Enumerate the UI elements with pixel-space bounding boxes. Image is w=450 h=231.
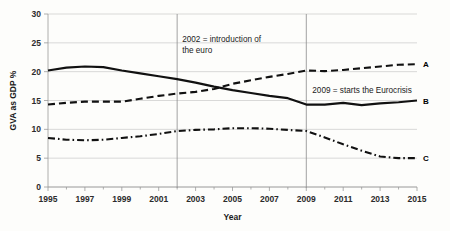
- x-tick-label-1995: 1995: [39, 194, 58, 204]
- y-tick-label-15: 15: [32, 96, 42, 106]
- x-tick-label-1997: 1997: [75, 194, 94, 204]
- x-tick-label-1999: 1999: [112, 194, 131, 204]
- series-label-B: B: [423, 97, 429, 106]
- eurocrisis-annotation-line1: 2009 = starts the Eurocrisis: [312, 86, 411, 95]
- euro-annotation-line2: the euro: [182, 46, 212, 55]
- chart-container: 051015202530 199519971999200120032005200…: [0, 0, 450, 231]
- x-tick-label-2013: 2013: [371, 194, 390, 204]
- y-tick-label-20: 20: [32, 67, 42, 77]
- x-tick-label-2011: 2011: [334, 194, 353, 204]
- y-tick-label-5: 5: [36, 153, 41, 163]
- y-axis-title: GVA as GDP %: [8, 70, 18, 130]
- euro-annotation-line1: 2002 = introduction of: [182, 35, 262, 44]
- y-tick-label-10: 10: [32, 124, 42, 134]
- x-tick-label-2001: 2001: [149, 194, 168, 204]
- x-tick-label-2009: 2009: [297, 194, 316, 204]
- line-chart: 051015202530 199519971999200120032005200…: [0, 0, 450, 231]
- y-tick-label-30: 30: [32, 9, 42, 19]
- x-tick-label-2007: 2007: [260, 194, 279, 204]
- series-label-C: C: [423, 154, 429, 163]
- x-tick-label-2015: 2015: [408, 194, 427, 204]
- x-axis-title: Year: [224, 212, 243, 222]
- y-tick-label-25: 25: [32, 38, 42, 48]
- x-tick-label-2003: 2003: [186, 194, 205, 204]
- y-tick-label-0: 0: [36, 182, 41, 192]
- series-label-A: A: [423, 60, 429, 69]
- x-tick-label-2005: 2005: [223, 194, 242, 204]
